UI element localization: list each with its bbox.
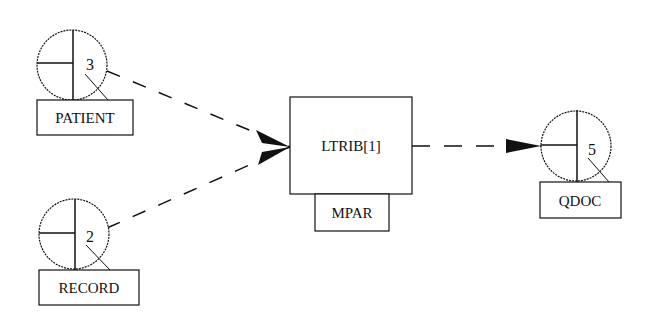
arrowhead-icon bbox=[258, 147, 290, 165]
flow-patient-to-ltrib[interactable] bbox=[107, 71, 290, 147]
datastore-number: 5 bbox=[588, 141, 596, 158]
process-ltrib[interactable]: LTRIB[1] MPAR bbox=[290, 97, 412, 231]
datastore-label: QDOC bbox=[559, 193, 602, 209]
flow-ltrib-to-qdoc[interactable] bbox=[412, 139, 541, 153]
datastore-circle bbox=[37, 30, 107, 100]
datastore-record[interactable]: 2 RECORD bbox=[39, 199, 139, 305]
process-sublabel: MPAR bbox=[331, 205, 372, 221]
diagram-canvas: 3 PATIENT 2 RECORD LTRIB[1] MPAR 5 QDOC bbox=[0, 0, 652, 314]
arrowhead-icon bbox=[506, 139, 541, 153]
datastore-patient[interactable]: 3 PATIENT bbox=[37, 30, 133, 135]
datastore-label: RECORD bbox=[59, 280, 120, 296]
process-label: LTRIB[1] bbox=[321, 138, 380, 154]
datastore-qdoc[interactable]: 5 QDOC bbox=[540, 110, 621, 218]
datastore-number: 2 bbox=[86, 228, 94, 245]
datastore-circle bbox=[541, 111, 611, 181]
datastore-label: PATIENT bbox=[55, 110, 114, 126]
datastore-number: 3 bbox=[86, 56, 94, 73]
arrowhead-icon bbox=[256, 130, 290, 147]
flow-record-to-ltrib[interactable] bbox=[107, 147, 290, 228]
